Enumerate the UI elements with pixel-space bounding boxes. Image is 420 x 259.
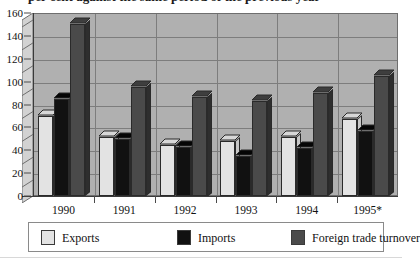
x-axis-label: 1994 bbox=[295, 204, 318, 217]
bar-front-face bbox=[374, 76, 389, 196]
bar-front-face bbox=[297, 148, 312, 196]
bar-foreign-trade-turnover bbox=[313, 93, 328, 196]
bar-front-face bbox=[192, 97, 207, 197]
y-axis-tick-mark bbox=[24, 127, 31, 128]
y-axis-tick-label: 40 bbox=[0, 145, 23, 156]
legend-item: Exports bbox=[41, 230, 99, 245]
bar-exports bbox=[160, 145, 175, 196]
bar-front-face bbox=[252, 101, 267, 196]
y-axis-tick-mark bbox=[24, 58, 31, 59]
bar-front-face bbox=[313, 93, 328, 196]
y-axis-tick-label: 160 bbox=[0, 8, 23, 19]
y-axis-tick-mark bbox=[24, 196, 31, 197]
bar-side-face bbox=[389, 72, 394, 196]
bar-exports bbox=[99, 137, 114, 196]
y-axis-line bbox=[33, 13, 34, 197]
y-axis-tick-label: 20 bbox=[0, 168, 23, 179]
x-axis-tick bbox=[155, 196, 156, 203]
x-axis-tick bbox=[94, 196, 95, 203]
chart-plot-area: 020406080100120140160 199019911992199319… bbox=[0, 6, 402, 214]
bar-foreign-trade-turnover bbox=[131, 87, 146, 196]
y-axis-tick-label: 100 bbox=[0, 76, 23, 87]
bar-front-face bbox=[358, 131, 373, 196]
x-axis-label: 1991 bbox=[113, 204, 136, 217]
bar-exports bbox=[220, 141, 235, 196]
y-axis-tick-mark bbox=[24, 150, 31, 151]
x-axis-tick bbox=[276, 196, 277, 203]
bar-series-container bbox=[33, 13, 398, 196]
x-axis-labels: 199019911992199319941995* bbox=[33, 204, 398, 220]
bar-front-face bbox=[99, 137, 114, 196]
x-axis-label: 1992 bbox=[174, 204, 197, 217]
y-axis-tick-label: 0 bbox=[0, 191, 23, 202]
bar-front-face bbox=[281, 137, 296, 196]
legend-swatch bbox=[291, 230, 305, 245]
bar-front-face bbox=[236, 156, 251, 196]
legend-label: Exports bbox=[62, 231, 99, 245]
bar-exports bbox=[342, 119, 357, 196]
bar-foreign-trade-turnover bbox=[70, 24, 85, 196]
x-axis-label: 1995* bbox=[353, 204, 382, 217]
bar-group bbox=[216, 13, 277, 196]
bar-imports bbox=[297, 148, 312, 196]
y-axis-tick-mark bbox=[24, 81, 31, 82]
y-axis-tick-mark bbox=[24, 104, 31, 105]
bar-group bbox=[276, 13, 337, 196]
bar-side-face bbox=[85, 21, 90, 196]
chart-title-text: per cent against the same period of the … bbox=[28, 0, 320, 5]
bar-front-face bbox=[342, 119, 357, 196]
bar-imports bbox=[236, 156, 251, 196]
bar-side-face bbox=[207, 93, 212, 196]
bar-front-face bbox=[160, 145, 175, 196]
bar-side-face bbox=[328, 89, 333, 196]
bar-group bbox=[155, 13, 216, 196]
x-axis-line bbox=[22, 196, 398, 197]
legend-item: Foreign trade turnover bbox=[291, 230, 420, 245]
x-axis-tick bbox=[337, 196, 338, 203]
bar-front-face bbox=[54, 99, 69, 196]
bar-foreign-trade-turnover bbox=[252, 101, 267, 196]
bar-imports bbox=[358, 131, 373, 196]
legend-swatch bbox=[41, 230, 55, 245]
y-axis-tick-label: 60 bbox=[0, 122, 23, 133]
bar-front-face bbox=[70, 24, 85, 196]
bar-exports bbox=[281, 137, 296, 196]
x-axis-label: 1990 bbox=[52, 204, 75, 217]
page-bottom-rule bbox=[0, 257, 402, 258]
bar-front-face bbox=[115, 139, 130, 196]
bar-exports bbox=[38, 116, 53, 196]
bar-front-face bbox=[220, 141, 235, 196]
bar-group bbox=[337, 13, 398, 196]
bar-foreign-trade-turnover bbox=[374, 76, 389, 196]
y-axis-tick-mark bbox=[24, 173, 31, 174]
y-axis-tick-label: 80 bbox=[0, 99, 23, 110]
legend-label: Imports bbox=[198, 231, 235, 245]
x-axis-tick bbox=[216, 196, 217, 203]
legend-swatch bbox=[177, 230, 191, 245]
bar-group bbox=[94, 13, 155, 196]
bar-side-face bbox=[146, 83, 151, 196]
x-axis-label: 1993 bbox=[234, 204, 257, 217]
bar-foreign-trade-turnover bbox=[192, 97, 207, 197]
bar-side-face bbox=[267, 97, 272, 196]
bar-imports bbox=[54, 99, 69, 196]
y-axis: 020406080100120140160 bbox=[0, 6, 32, 196]
legend-label: Foreign trade turnover bbox=[312, 231, 420, 245]
bar-imports bbox=[115, 139, 130, 196]
bar-front-face bbox=[38, 116, 53, 196]
y-axis-tick-mark bbox=[24, 35, 31, 36]
bar-front-face bbox=[131, 87, 146, 196]
legend-item: Imports bbox=[177, 230, 235, 245]
y-axis-tick-label: 140 bbox=[0, 30, 23, 41]
chart-legend: ExportsImportsForeign trade turnover bbox=[28, 222, 384, 252]
bar-group bbox=[33, 13, 94, 196]
bar-front-face bbox=[176, 147, 191, 196]
y-axis-tick-label: 120 bbox=[0, 53, 23, 64]
y-axis-tick-mark bbox=[24, 13, 31, 14]
bar-imports bbox=[176, 147, 191, 196]
